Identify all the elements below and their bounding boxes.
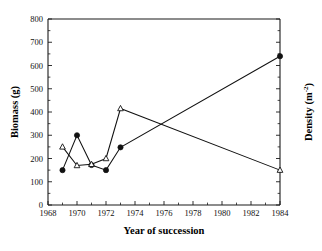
series-biomass [60,54,283,173]
chart-plot-area: 196819701972197419761978198019821984 010… [0,0,322,251]
right-axis-title-paren: ) [303,82,315,86]
data-point-marker [60,144,66,149]
y-tick-label: 500 [30,84,43,94]
x-tick-label: 1976 [156,208,173,218]
y-axis-title: Biomass (g) [9,85,21,138]
data-point-marker [60,168,65,173]
data-point-marker [103,168,108,173]
y-axis-ticks: 0100200300400500600700800 [30,14,52,210]
y-tick-label: 700 [30,37,43,47]
y-tick-label: 200 [30,154,43,164]
x-tick-label: 1972 [98,208,115,218]
x-tick-label: 1982 [243,208,260,218]
series-line [63,56,281,170]
y-tick-label: 800 [30,14,43,24]
x-tick-label: 1984 [272,208,290,218]
data-point-marker [118,105,124,110]
x-tick-label: 1980 [214,208,231,218]
series-density [60,105,283,172]
data-point-marker [103,155,109,160]
right-axis-ticks [276,19,280,205]
data-point-marker [118,145,123,150]
x-axis-title: Year of succession [124,225,205,236]
x-tick-label: 1974 [127,208,145,218]
y-tick-label: 400 [30,107,43,117]
x-axis-ticks: 196819701972197419761978198019821984 [40,201,290,218]
data-point-marker [277,54,282,59]
data-point-marker [74,133,79,138]
y-tick-label: 600 [30,61,43,71]
right-axis-title-base: Density (m [303,92,315,141]
x-tick-label: 1970 [69,208,86,218]
data-series-group [60,54,283,173]
x-tick-label: 1978 [185,208,202,218]
chart-figure: 196819701972197419761978198019821984 010… [0,0,322,251]
y-tick-label: 100 [30,177,43,187]
right-axis-title: Density (m-2) [302,82,314,141]
y-tick-label: 300 [30,130,43,140]
axis-spines [48,19,280,205]
y-tick-label: 0 [39,200,43,210]
